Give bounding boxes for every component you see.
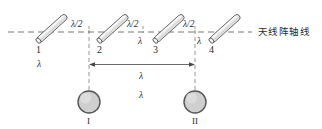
feed-lambda-label-1: λ <box>37 60 41 70</box>
source-highlight-I <box>80 93 91 104</box>
antenna-element-1 <box>35 13 68 44</box>
antenna-element-2 <box>96 13 129 44</box>
dimension-arrowhead-right <box>189 62 195 67</box>
array-axis-caption: 天线阵轴线 <box>258 27 310 37</box>
source-highlight-II <box>186 93 197 104</box>
antenna-label-4: 4 <box>209 45 214 55</box>
antenna-element-3 <box>152 13 185 44</box>
feed-lambda-label-2: λ <box>138 37 142 47</box>
antenna-label-3: 3 <box>153 45 158 55</box>
antenna-array-diagram: λ/2 λ/2 λ/2 1 2 3 4 λ λ λ λ λ I II 天线阵轴线 <box>0 0 322 129</box>
source-label-II: II <box>192 117 198 126</box>
dimension-label-primary: λ <box>139 72 143 82</box>
antenna-element-4 <box>208 13 241 44</box>
antenna-label-1: 1 <box>36 45 41 55</box>
spacing-label-gap-3-4: λ/2 <box>183 20 195 30</box>
source-label-I: I <box>87 117 90 126</box>
antenna-label-2: 2 <box>97 45 102 55</box>
dimension-label-secondary: λ <box>139 91 143 101</box>
diagram-canvas <box>0 0 322 129</box>
feed-lambda-label-3: λ <box>197 37 201 47</box>
spacing-label-gap-2-3: λ/2 <box>127 20 139 30</box>
dimension-arrowhead-left <box>89 62 95 67</box>
spacing-label-gap-1-2: λ/2 <box>71 20 83 30</box>
